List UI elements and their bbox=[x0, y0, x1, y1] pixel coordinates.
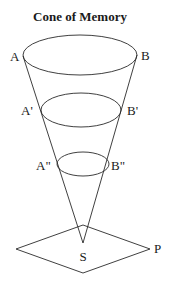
label-b: B bbox=[141, 48, 150, 63]
cone-of-memory-diagram: Cone of Memory A B A' B' A" B" S P bbox=[0, 0, 171, 290]
label-p: P bbox=[154, 241, 161, 256]
ellipse-ab bbox=[23, 35, 137, 75]
ellipse-a-double-prime-b-double-prime bbox=[57, 152, 109, 176]
label-a: A bbox=[10, 49, 20, 64]
label-b-double-prime: B" bbox=[111, 158, 125, 173]
label-b-prime: B' bbox=[127, 103, 138, 118]
label-a-prime: A' bbox=[21, 103, 33, 118]
ellipse-a-prime-b-prime bbox=[41, 93, 121, 127]
label-s: S bbox=[79, 249, 86, 264]
cone-left-edge bbox=[23, 56, 83, 243]
label-a-double-prime: A" bbox=[36, 158, 51, 173]
diagram-title: Cone of Memory bbox=[33, 9, 127, 24]
cone-right-edge bbox=[83, 55, 137, 243]
